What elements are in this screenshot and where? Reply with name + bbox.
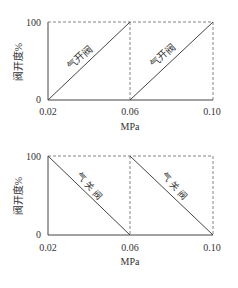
y-tick-0: 0 <box>36 229 41 240</box>
x-tick-0.02: 0.02 <box>39 106 57 117</box>
series-line-2 <box>130 156 213 235</box>
air-to-open-plot: 气开阀 气开阀 100 0 0.02 0.06 0.10 MPa 阀开度% <box>0 0 238 144</box>
svg-text:阀: 阀 <box>175 188 188 201</box>
series-label-2: 气开阀 <box>147 40 177 69</box>
x-axis-label: MPa <box>121 121 140 132</box>
y-tick-100: 100 <box>26 17 41 28</box>
series-line-1 <box>48 156 130 235</box>
air-to-close-plot: 气 关 阀 气 关 阀 100 0 0.02 0.06 0.10 MPa 阀开度… <box>0 144 238 288</box>
x-tick-0.06: 0.06 <box>121 242 139 253</box>
y-tick-100: 100 <box>26 151 41 162</box>
series-label-1: 气开阀 <box>64 42 94 71</box>
y-axis-label: 阀开度% <box>12 177 24 215</box>
series-line-1 <box>48 22 130 100</box>
air-to-open-chart: 气开阀 气开阀 100 0 0.02 0.06 0.10 MPa 阀开度% <box>0 0 238 144</box>
x-tick-0.06: 0.06 <box>121 106 139 117</box>
series-line-2 <box>130 22 213 100</box>
x-axis-label: MPa <box>121 256 140 267</box>
x-tick-0.02: 0.02 <box>39 242 57 253</box>
x-tick-0.10: 0.10 <box>203 106 221 117</box>
svg-text:阀: 阀 <box>90 188 103 201</box>
air-to-close-chart: 气 关 阀 气 关 阀 100 0 0.02 0.06 0.10 MPa 阀开度… <box>0 144 238 288</box>
series-label-2: 气 关 阀 <box>159 170 188 202</box>
x-tick-0.10: 0.10 <box>203 242 221 253</box>
y-axis-label: 阀开度% <box>12 43 24 81</box>
y-tick-0: 0 <box>36 94 41 105</box>
